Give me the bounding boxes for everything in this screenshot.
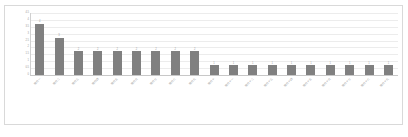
bar-group[interactable]: 2: [108, 13, 127, 75]
x-axis-tick-label: 項目十五: [302, 77, 313, 88]
bar[interactable]: [384, 65, 393, 75]
bar[interactable]: [74, 51, 83, 75]
y-axis-tick-label: 2: [28, 46, 29, 49]
bar-group[interactable]: 2: [146, 13, 165, 75]
bar-group[interactable]: 2: [69, 13, 88, 75]
bar[interactable]: [93, 51, 102, 75]
y-axis-tick-label: 0.5: [25, 67, 29, 70]
bar[interactable]: [35, 24, 44, 75]
bar[interactable]: [306, 65, 315, 75]
x-axis-tick-label: 項目四: [91, 77, 100, 86]
bar-group[interactable]: 4: [30, 13, 49, 75]
x-axis-tick-label: 項目十: [207, 77, 216, 86]
bar-group[interactable]: 1: [224, 13, 243, 75]
bar-group[interactable]: 2: [185, 13, 204, 75]
x-axis-label-slot: 項目十四: [282, 76, 301, 124]
x-axis-label-slot: 項目十七: [340, 76, 359, 124]
x-axis-label-slot: 項目十: [204, 76, 223, 124]
bar[interactable]: [365, 65, 374, 75]
x-axis-label-slot: 項目八: [166, 76, 185, 124]
bar-group[interactable]: 1: [379, 13, 398, 75]
x-axis-label-slot: 項目四: [88, 76, 107, 124]
bar[interactable]: [229, 65, 238, 75]
bar-group[interactable]: 2: [127, 13, 146, 75]
y-axis-tick-label: 1.5: [25, 53, 29, 56]
x-axis-tick-label: 項目一: [33, 77, 42, 86]
x-axis-tick-label: 項目九: [188, 77, 197, 86]
bar-group[interactable]: 3: [49, 13, 68, 75]
bar[interactable]: [248, 65, 257, 75]
x-axis-tick-label: 項目十四: [283, 77, 294, 88]
x-axis-tick-label: 項目三: [72, 77, 81, 86]
bar-group[interactable]: 1: [321, 13, 340, 75]
x-axis-tick-label: 項目十六: [322, 77, 333, 88]
bar[interactable]: [113, 51, 122, 75]
bar[interactable]: [171, 51, 180, 75]
bar-group[interactable]: 2: [88, 13, 107, 75]
x-axis-label-slot: 項目十一: [224, 76, 243, 124]
chart-frame: 00.511.522.533.544.5 4322222221111111111…: [4, 5, 403, 125]
x-axis-tick-label: 項目十三: [263, 77, 274, 88]
bar-group[interactable]: 1: [340, 13, 359, 75]
x-axis-label-slot: 項目十二: [243, 76, 262, 124]
x-axis-tick-label: 項目十八: [360, 77, 371, 88]
bar[interactable]: [132, 51, 141, 75]
bar-group[interactable]: 1: [301, 13, 320, 75]
x-axis-label-slot: 項目三: [69, 76, 88, 124]
bar-group[interactable]: 1: [359, 13, 378, 75]
x-axis-label-slot: 項目五: [108, 76, 127, 124]
y-axis-tick-label: 0: [28, 74, 29, 77]
x-axis-label-slot: 項目十五: [301, 76, 320, 124]
y-axis-tick-label: 4.5: [25, 12, 29, 15]
bar[interactable]: [55, 38, 64, 75]
y-axis-tick-label: 3.5: [25, 25, 29, 28]
x-axis-label-slot: 項目十六: [321, 76, 340, 124]
x-axis-tick-label: 項目二: [52, 77, 61, 86]
x-axis-tick-label: 項目十一: [225, 77, 236, 88]
y-axis-tick-label: 3: [28, 32, 29, 35]
y-axis-tick-label: 1: [28, 60, 29, 63]
x-axis-label-slot: 項目十九: [379, 76, 398, 124]
bar[interactable]: [151, 51, 160, 75]
bar[interactable]: [268, 65, 277, 75]
bar[interactable]: [210, 65, 219, 75]
x-axis-label-slot: 項目十八: [359, 76, 378, 124]
x-axis-label-slot: 項目二: [49, 76, 68, 124]
bar-group[interactable]: 2: [166, 13, 185, 75]
x-axis-label-slot: 項目六: [127, 76, 146, 124]
bar-series: 4322222221111111111: [30, 13, 398, 75]
y-axis: 00.511.522.533.544.5: [19, 13, 30, 75]
bar-group[interactable]: 1: [204, 13, 223, 75]
x-axis-tick-label: 項目十二: [244, 77, 255, 88]
x-axis-label-slot: 項目一: [30, 76, 49, 124]
x-axis-tick-label: 項目十九: [380, 77, 391, 88]
x-axis-labels: 項目一項目二項目三項目四項目五項目六項目七項目八項目九項目十項目十一項目十二項目…: [30, 76, 398, 124]
x-axis-label-slot: 項目七: [146, 76, 165, 124]
bar-group[interactable]: 1: [282, 13, 301, 75]
bar[interactable]: [190, 51, 199, 75]
bar[interactable]: [287, 65, 296, 75]
x-axis-label-slot: 項目九: [185, 76, 204, 124]
bar-group[interactable]: 1: [243, 13, 262, 75]
bar-group[interactable]: 1: [263, 13, 282, 75]
x-axis-tick-label: 項目十七: [341, 77, 352, 88]
y-axis-tick-label: 2.5: [25, 39, 29, 42]
x-axis-tick-label: 項目八: [169, 77, 178, 86]
chart-plot-area: 00.511.522.533.544.5 4322222221111111111…: [5, 6, 402, 124]
y-axis-tick-label: 4: [28, 19, 29, 22]
x-axis-tick-label: 項目五: [111, 77, 120, 86]
x-axis-tick-label: 項目七: [149, 77, 158, 86]
bar[interactable]: [326, 65, 335, 75]
x-axis-tick-label: 項目六: [130, 77, 139, 86]
bar[interactable]: [345, 65, 354, 75]
x-axis-label-slot: 項目十三: [263, 76, 282, 124]
